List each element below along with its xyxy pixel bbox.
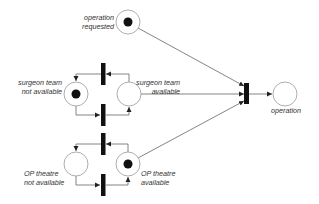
label-line: not available xyxy=(14,88,62,97)
place-operation xyxy=(273,82,297,106)
transition-surgeon-release xyxy=(101,63,106,85)
label-line: available xyxy=(141,179,176,188)
token-icon xyxy=(124,160,133,169)
token-icon xyxy=(124,18,133,27)
transition-start-operation xyxy=(244,83,249,104)
label-line: available xyxy=(132,88,180,97)
transition-surgeon-occupy xyxy=(101,104,106,126)
label-operation: operation xyxy=(271,107,301,116)
label-line: operation xyxy=(271,107,301,116)
label-line: requested xyxy=(74,23,114,32)
place-op-not-available xyxy=(64,152,88,176)
label-operation-requested: operation requested xyxy=(74,14,114,31)
transition-op-release xyxy=(101,133,106,155)
label-surgeon-available: surgeon team available xyxy=(132,79,180,96)
label-line: not available xyxy=(24,179,64,188)
token-icon xyxy=(72,90,81,99)
transition-op-occupy xyxy=(101,174,106,196)
label-op-available: OP theatre available xyxy=(141,170,176,187)
label-op-not-available: OP theatre not available xyxy=(24,170,64,187)
label-surgeon-not-available: surgeon team not available xyxy=(14,79,62,96)
